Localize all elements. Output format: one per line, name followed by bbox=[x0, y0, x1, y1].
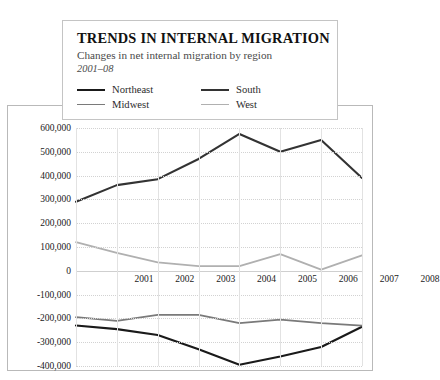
gridline-vertical bbox=[321, 128, 322, 366]
gridline-vertical bbox=[239, 128, 240, 366]
gridline-horizontal bbox=[76, 247, 362, 248]
gridline-vertical bbox=[117, 128, 118, 366]
gridline-horizontal bbox=[76, 199, 362, 200]
gridline-vertical bbox=[280, 128, 281, 366]
legend-swatch-south bbox=[201, 89, 229, 91]
page-title: TRENDS IN INTERNAL MIGRATION bbox=[77, 30, 323, 47]
chart-subtitle: Changes in net internal migration by reg… bbox=[77, 49, 323, 62]
y-axis-tick-label: 500,000 bbox=[40, 147, 71, 157]
y-axis-tick-label: -400,000 bbox=[37, 361, 71, 371]
y-axis-tick-label: 100,000 bbox=[40, 242, 71, 252]
plot-area bbox=[76, 128, 362, 366]
series-line-south bbox=[76, 134, 362, 202]
legend-item-south[interactable]: South bbox=[201, 84, 325, 95]
legend-item-west[interactable]: West bbox=[201, 99, 325, 110]
gridline-horizontal bbox=[76, 366, 362, 367]
legend-swatch-northeast bbox=[77, 89, 105, 91]
x-axis-tick-label: 2007 bbox=[380, 274, 399, 284]
gridline-horizontal bbox=[76, 318, 362, 319]
gridline-vertical bbox=[158, 128, 159, 366]
legend-swatch-west bbox=[201, 104, 229, 105]
gridline-horizontal bbox=[76, 342, 362, 343]
x-axis-tick-label: 2008 bbox=[421, 274, 440, 284]
y-axis-tick-label: -100,000 bbox=[37, 290, 71, 300]
y-axis-tick-label: 0 bbox=[66, 266, 71, 276]
x-axis-tick-label: 2001 bbox=[135, 274, 154, 284]
gridline-vertical bbox=[362, 128, 363, 366]
zero-axis-line bbox=[76, 271, 362, 272]
x-axis-tick-label: 2004 bbox=[257, 274, 276, 284]
chart-frame: 600,000500,000400,000300,000200,000100,0… bbox=[7, 105, 373, 371]
y-axis-tick-label: 600,000 bbox=[40, 123, 71, 133]
legend-label: Northeast bbox=[112, 84, 153, 95]
gridline-horizontal bbox=[76, 128, 362, 129]
y-axis-tick-label: 400,000 bbox=[40, 171, 71, 181]
legend-item-northeast[interactable]: Northeast bbox=[77, 84, 201, 95]
legend-label: West bbox=[236, 99, 257, 110]
y-axis-tick-label: -300,000 bbox=[37, 337, 71, 347]
gridline-vertical bbox=[199, 128, 200, 366]
legend-item-midwest[interactable]: Midwest bbox=[77, 99, 201, 110]
x-axis-tick-label: 2002 bbox=[175, 274, 194, 284]
chart-title-card: TRENDS IN INTERNAL MIGRATION Changes in … bbox=[62, 20, 338, 120]
gridline-horizontal bbox=[76, 295, 362, 296]
legend-swatch-midwest bbox=[77, 104, 105, 105]
x-axis-tick-label: 2005 bbox=[298, 274, 317, 284]
series-line-midwest bbox=[76, 315, 362, 326]
gridline-horizontal bbox=[76, 176, 362, 177]
gridline-horizontal bbox=[76, 223, 362, 224]
y-axis-tick-label: -200,000 bbox=[37, 313, 71, 323]
legend-label: Midwest bbox=[112, 99, 149, 110]
series-line-northeast bbox=[76, 326, 362, 365]
x-axis-tick-label: 2003 bbox=[216, 274, 235, 284]
y-axis-tick-label: 300,000 bbox=[40, 194, 71, 204]
x-axis-tick-label: 2006 bbox=[339, 274, 358, 284]
legend-label: South bbox=[236, 84, 261, 95]
gridline-vertical bbox=[76, 128, 77, 366]
y-axis-labels: 600,000500,000400,000300,000200,000100,0… bbox=[8, 128, 71, 366]
chart-legend: NortheastSouthMidwestWest bbox=[77, 82, 323, 112]
y-axis-tick-label: 200,000 bbox=[40, 218, 71, 228]
gridline-horizontal bbox=[76, 152, 362, 153]
chart-period: 2001–08 bbox=[77, 62, 323, 75]
